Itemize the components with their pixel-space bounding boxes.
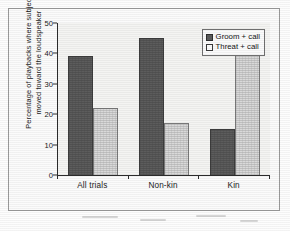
y-tick-mark [53, 114, 57, 115]
bar-group [129, 23, 200, 175]
bar-group [58, 23, 129, 175]
bar[interactable] [235, 53, 260, 175]
figure: Percentage of playbacks where subject mo… [0, 0, 290, 231]
plot-wrapper: 01020304050 All trialsNon-kinKin Groom +… [57, 23, 269, 189]
scan-artifact [82, 216, 118, 218]
bar[interactable] [139, 38, 164, 175]
legend-item[interactable]: Groom + call [206, 32, 260, 42]
bar-texture [211, 130, 234, 175]
bar[interactable] [210, 129, 235, 175]
bar[interactable] [68, 56, 93, 175]
y-tick-mark [53, 144, 57, 145]
x-tick-label: Kin [198, 181, 269, 190]
y-tick-label: 40 [45, 49, 53, 58]
y-tick-mark [53, 83, 57, 84]
scan-artifact [240, 220, 258, 222]
legend-swatch-icon [206, 44, 213, 51]
y-axis-label: Percentage of playbacks where subject mo… [24, 0, 43, 143]
bar-texture [165, 124, 188, 175]
x-tick-mark [269, 175, 270, 179]
bar-texture [236, 54, 259, 175]
y-tick-mark [53, 53, 57, 54]
legend-label: Groom + call [216, 32, 260, 42]
scan-artifact [140, 219, 166, 221]
y-tick-mark [53, 23, 57, 24]
bar[interactable] [164, 123, 189, 175]
scan-artifact [196, 215, 226, 217]
bar-texture [69, 57, 92, 175]
legend-label: Threat + call [216, 42, 259, 52]
legend-swatch-icon [206, 34, 213, 41]
x-axis-labels: All trialsNon-kinKin [57, 181, 269, 190]
x-tick-mark [128, 175, 129, 179]
legend: Groom + callThreat + call [202, 29, 265, 56]
bar-texture [94, 109, 117, 175]
bar[interactable] [93, 108, 118, 175]
legend-item[interactable]: Threat + call [206, 42, 260, 52]
y-tick-label: 30 [45, 79, 53, 88]
chart-frame: Percentage of playbacks where subject mo… [8, 8, 280, 211]
y-tick-label: 20 [45, 110, 53, 119]
y-tick-label: 10 [45, 140, 53, 149]
x-tick-mark [198, 175, 199, 179]
x-axis-ticks [57, 175, 269, 180]
y-tick-label: 50 [45, 19, 53, 28]
x-tick-label: Non-kin [128, 181, 199, 190]
bar-texture [140, 39, 163, 175]
x-tick-mark [57, 175, 58, 179]
x-tick-label: All trials [57, 181, 128, 190]
